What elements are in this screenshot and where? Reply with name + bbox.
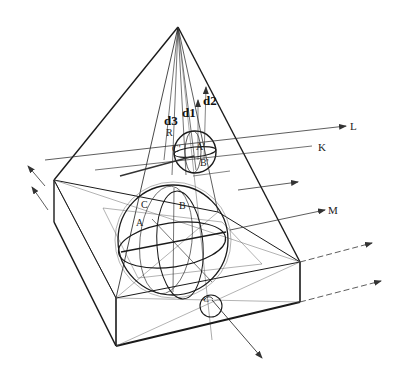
label-small-B: B' [200,157,209,168]
label-d2: d2 [203,93,217,108]
label-K: K [318,141,326,153]
label-small-C: C' [172,143,181,154]
label-small-A: A' [196,141,205,152]
label-M: M [328,204,338,216]
label-big-B: B [179,200,186,211]
label-d1: d1 [182,105,196,120]
label-R: R [166,127,173,138]
label-big-C: C [141,199,148,210]
label-big-A: A [136,217,144,228]
large-sphere [115,182,231,300]
label-L: L [350,120,357,132]
pyramid [54,27,300,340]
tiny-sphere [200,295,262,358]
slab [54,180,300,346]
label-d3: d3 [164,113,178,128]
label-bottom-C: C [203,294,209,304]
perspective-diagram: d3 d1 d2 R L K M C' A' B' C A B C [0,0,402,384]
